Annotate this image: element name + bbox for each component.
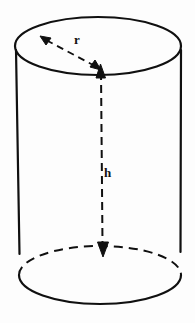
height-dimension-line <box>101 72 103 244</box>
radius-label: r <box>74 33 80 46</box>
radius-arrowhead-outer-icon <box>40 36 51 45</box>
radius-dimension-line <box>46 40 95 66</box>
cylinder-drawing <box>0 0 195 323</box>
cylinder-diagram: r h <box>0 0 195 323</box>
height-arrowhead-down-icon <box>98 242 109 257</box>
height-label: h <box>104 166 111 179</box>
right-side-line <box>181 50 182 252</box>
bottom-ellipse-front-arc <box>19 275 181 304</box>
left-side-line <box>16 50 20 254</box>
bottom-ellipse-back-arc <box>19 246 181 275</box>
